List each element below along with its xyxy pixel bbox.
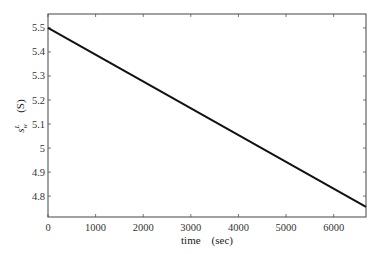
y-tick-label: 5.3 xyxy=(32,70,45,81)
y-tick-label: 5.4 xyxy=(32,46,46,57)
y-label-unit: (S) xyxy=(14,99,27,113)
y-tick-label: 5.1 xyxy=(32,119,45,130)
plot-frame xyxy=(48,14,366,217)
y-tick-label: 5 xyxy=(40,143,45,154)
x-tick-label: 4000 xyxy=(228,222,249,233)
x-tick-label: 1000 xyxy=(85,222,106,233)
line-chart: 4.84.955.15.25.35.45.5 01000200030004000… xyxy=(0,0,384,254)
x-tick-label: 6000 xyxy=(323,222,344,233)
x-axis-label: time (sec) xyxy=(181,234,233,247)
x-tick-label: 3000 xyxy=(180,222,201,233)
svg-text:sLw (S): sLw (S) xyxy=(13,99,29,133)
y-axis-label: sLw (S) xyxy=(13,99,29,133)
y-tick-label: 5.5 xyxy=(32,22,45,33)
x-tick-label: 2000 xyxy=(133,222,154,233)
y-tick-label: 4.8 xyxy=(32,191,45,202)
x-axis-ticks: 0100020003000400050006000 xyxy=(45,14,344,233)
y-label-superscript: L xyxy=(13,124,21,129)
y-tick-label: 5.2 xyxy=(32,95,45,106)
x-tick-label: 0 xyxy=(45,222,50,233)
series-line xyxy=(48,28,366,207)
y-tick-label: 4.9 xyxy=(32,167,45,178)
data-series xyxy=(48,28,366,207)
x-tick-label: 5000 xyxy=(276,222,297,233)
